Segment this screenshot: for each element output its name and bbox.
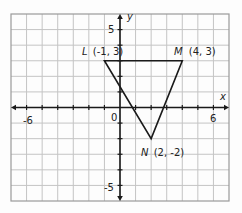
y-tick-label-5: 5	[108, 24, 114, 35]
point-N-coords: (2, -2)	[154, 147, 185, 158]
coordinate-plane: y x 0 -6 6 5 -5 L (-1, 3) M (4, 3) N (2,…	[0, 0, 242, 213]
y-axis-label: y	[126, 11, 134, 22]
point-label-L: L (-1, 3)	[82, 46, 123, 57]
x-tick-label-neg6: -6	[23, 115, 33, 126]
x-axis-label: x	[219, 91, 226, 102]
y-tick-label-neg5: -5	[104, 182, 114, 193]
x-axis-arrow-left-icon	[11, 105, 16, 111]
point-label-M: M (4, 3)	[174, 46, 216, 57]
origin-label: 0	[111, 112, 117, 123]
point-label-N: N (2, -2)	[141, 147, 184, 158]
point-M-coords: (4, 3)	[189, 46, 216, 57]
y-axis-arrow-down-icon	[117, 196, 123, 201]
triangle-LMN	[104, 61, 182, 139]
point-N-name: N	[141, 147, 149, 158]
point-L-coords: (-1, 3)	[93, 46, 124, 57]
coordinate-plane-figure: y x 0 -6 6 5 -5 L (-1, 3) M (4, 3) N (2,…	[0, 0, 242, 213]
point-M-name: M	[174, 46, 183, 57]
y-axis-arrow-up-icon	[117, 14, 123, 19]
x-axis-arrow-right-icon	[224, 105, 229, 111]
axes	[11, 14, 229, 201]
point-L-name: L	[82, 46, 88, 57]
x-tick-label-6: 6	[210, 113, 216, 124]
